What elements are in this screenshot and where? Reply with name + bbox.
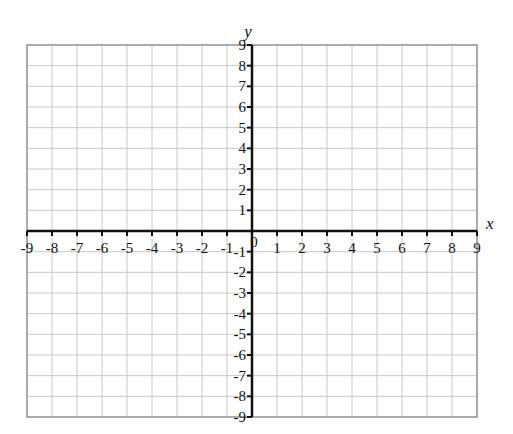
x-tick-label: -3	[171, 240, 184, 256]
y-tick-label: 8	[239, 58, 247, 74]
coordinate-plane: -9-8-7-6-5-4-3-2-1123456789987654321-1-2…	[0, 0, 513, 434]
y-tick-label: 6	[239, 99, 247, 115]
y-tick-label: -8	[234, 388, 247, 404]
x-tick-label: 6	[398, 240, 406, 256]
y-tick-label: -6	[234, 347, 247, 363]
y-tick-label: -1	[234, 244, 247, 260]
y-tick-label: 1	[239, 202, 247, 218]
x-tick-label: 7	[423, 240, 431, 256]
y-tick-label: -7	[234, 368, 247, 384]
y-tick-label: -9	[234, 409, 247, 425]
x-tick-label: -9	[21, 240, 34, 256]
origin-label: 0	[250, 234, 258, 250]
x-tick-label: 4	[348, 240, 356, 256]
y-tick-label: -3	[234, 285, 247, 301]
x-tick-label: -5	[121, 240, 134, 256]
y-tick-label: 3	[239, 161, 247, 177]
x-tick-label: 1	[273, 240, 281, 256]
x-tick-label: 9	[473, 240, 481, 256]
x-tick-label: -4	[146, 240, 159, 256]
y-tick-label: 7	[239, 78, 247, 94]
x-axis-label: x	[485, 214, 494, 233]
y-tick-label: 5	[239, 120, 247, 136]
x-tick-label: 2	[298, 240, 306, 256]
y-tick-label: 4	[239, 140, 247, 156]
y-axis-label: y	[242, 22, 252, 41]
y-tick-label: -5	[234, 326, 247, 342]
x-tick-label: 5	[373, 240, 381, 256]
y-tick-label: -4	[234, 306, 247, 322]
x-tick-label: 8	[448, 240, 456, 256]
x-tick-label: -8	[46, 240, 59, 256]
y-tick-label: 2	[239, 182, 247, 198]
x-tick-label: -6	[96, 240, 109, 256]
x-tick-label: -1	[221, 240, 234, 256]
x-tick-label: -2	[196, 240, 209, 256]
x-tick-label: 3	[323, 240, 331, 256]
x-tick-label: -7	[71, 240, 84, 256]
y-tick-label: -2	[234, 264, 247, 280]
